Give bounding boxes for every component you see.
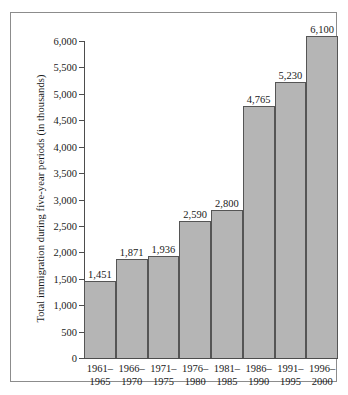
x-axis-tick-label-line: 1995 xyxy=(277,376,303,389)
x-axis-tick-label-line: 1990 xyxy=(246,376,272,389)
bar: 1,871 xyxy=(116,259,148,358)
bar: 1,936 xyxy=(148,256,180,358)
y-axis-tick xyxy=(79,279,84,280)
chart-frame: Total immigration during five-year perio… xyxy=(10,12,337,382)
y-axis-tick xyxy=(79,200,84,201)
y-axis-tick xyxy=(79,226,84,227)
x-axis-tick-label: 1976–1980 xyxy=(182,363,208,388)
x-axis-tick-label-line: 1965 xyxy=(87,376,113,389)
y-axis-tick-label: 4,000 xyxy=(53,141,77,152)
y-axis-tick xyxy=(79,94,84,95)
y-axis-tick-label: 1,500 xyxy=(53,273,77,284)
y-axis-tick-label: 2,000 xyxy=(53,247,77,258)
y-axis-tick-label: 5,000 xyxy=(53,88,77,99)
y-axis-tick-label: 500 xyxy=(61,326,77,337)
y-axis-tick-label: 0 xyxy=(72,353,77,364)
x-axis-tick-label-line: 1971– xyxy=(150,363,176,376)
chart-figure: Total immigration during five-year perio… xyxy=(0,0,348,395)
bar: 4,765 xyxy=(243,106,275,358)
y-axis-tick-label: 2,500 xyxy=(53,220,77,231)
x-axis-tick-label-line: 1985 xyxy=(214,376,240,389)
y-axis-tick-label: 3,000 xyxy=(53,194,77,205)
x-axis-tick-label: 1961–1965 xyxy=(87,363,113,388)
x-axis-tick-label: 1981–1985 xyxy=(214,363,240,388)
x-axis-tick-label: 1996–2000 xyxy=(309,363,335,388)
y-axis-tick xyxy=(79,173,84,174)
bar-value-label: 1,451 xyxy=(88,269,112,280)
x-axis-tick-label-line: 1966– xyxy=(119,363,145,376)
x-axis-tick-label: 1966–1970 xyxy=(119,363,145,388)
y-axis-tick xyxy=(79,252,84,253)
x-axis-tick-label-line: 1970 xyxy=(119,376,145,389)
bar: 6,100 xyxy=(306,36,338,358)
y-axis-tick-label: 3,500 xyxy=(53,168,77,179)
x-axis-tick-label-line: 1986– xyxy=(246,363,272,376)
bar: 1,451 xyxy=(84,281,116,358)
y-axis-tick-label: 1,000 xyxy=(53,300,77,311)
bar: 2,800 xyxy=(211,210,243,358)
bar-value-label: 2,800 xyxy=(215,198,239,209)
x-axis-tick-label-line: 1996– xyxy=(309,363,335,376)
y-axis-tick xyxy=(79,147,84,148)
y-axis-tick xyxy=(79,120,84,121)
plot-area: 05001,0001,5002,0002,5003,0003,5004,0004… xyxy=(84,41,338,358)
x-axis-tick-label-line: 1975 xyxy=(150,376,176,389)
y-axis-tick-label: 5,500 xyxy=(53,62,77,73)
x-axis-tick-label-line: 1981– xyxy=(214,363,240,376)
bar-value-label: 1,936 xyxy=(152,244,176,255)
y-axis-title: Total immigration during five-year perio… xyxy=(35,49,46,349)
x-axis-tick-label: 1986–1990 xyxy=(246,363,272,388)
x-axis-tick-label-line: 1961– xyxy=(87,363,113,376)
x-axis-tick-label-line: 1991– xyxy=(277,363,303,376)
bar: 2,590 xyxy=(179,221,211,358)
bar: 5,230 xyxy=(275,82,307,358)
x-axis-tick-label: 1971–1975 xyxy=(150,363,176,388)
bar-value-label: 6,100 xyxy=(310,24,334,35)
bar-value-label: 1,871 xyxy=(120,247,144,258)
bar-value-label: 5,230 xyxy=(279,70,303,81)
bar-value-label: 2,590 xyxy=(183,209,207,220)
x-axis-tick-label-line: 1980 xyxy=(182,376,208,389)
y-axis-tick-label: 6,000 xyxy=(53,36,77,47)
x-axis-tick-label-line: 2000 xyxy=(309,376,335,389)
bar-value-label: 4,765 xyxy=(247,94,271,105)
x-axis-tick-label-line: 1976– xyxy=(182,363,208,376)
y-axis-tick xyxy=(79,41,84,42)
x-axis-tick-label: 1991–1995 xyxy=(277,363,303,388)
y-axis-tick xyxy=(79,67,84,68)
y-axis-tick xyxy=(79,358,84,359)
x-axis-line xyxy=(84,358,338,359)
y-axis-tick-label: 4,500 xyxy=(53,115,77,126)
